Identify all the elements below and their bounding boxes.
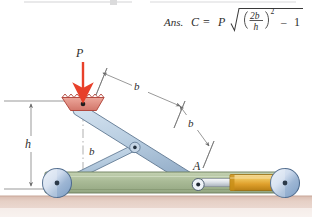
label-b-upper-far: b — [134, 80, 140, 92]
exponent: 2 — [271, 7, 275, 16]
piston-rod — [202, 179, 232, 187]
scan-artifact-strip — [24, 0, 296, 5]
label-A: A — [192, 159, 201, 173]
ground — [0, 196, 312, 217]
wheel-left — [43, 169, 72, 198]
dimension-b-upper-far — [96, 68, 185, 128]
answer-equation: Ans. C = P 2b h 2 – 1 — [163, 7, 303, 32]
label-P: P — [75, 46, 84, 60]
answer-factor: P — [217, 15, 226, 29]
label-b-lower: b — [89, 145, 95, 157]
shoe-dimension-leader — [96, 68, 107, 95]
joint-middle — [130, 142, 140, 152]
joint-a — [192, 179, 204, 191]
paren-left — [245, 12, 248, 29]
b-near-extension-left — [174, 101, 185, 128]
radicand-numerator: 2b — [250, 11, 260, 21]
answer-equals: = — [203, 15, 210, 29]
figure-canvas: Ans. C = P 2b h 2 – 1 h — [0, 0, 312, 217]
minus-sign: – — [280, 16, 287, 28]
constant-one: 1 — [294, 15, 300, 29]
answer-prefix: Ans. — [163, 16, 183, 28]
mechanism-figure: Ans. C = P 2b h 2 – 1 h — [0, 0, 312, 217]
radicand-denominator: h — [254, 22, 259, 32]
shoe-pivot — [81, 102, 86, 107]
wheel-right — [271, 169, 300, 198]
answer-lhs: C — [191, 15, 200, 29]
paren-right — [266, 12, 269, 29]
dimension-b-upper-near — [174, 101, 214, 168]
label-h: h — [25, 137, 31, 151]
label-b-upper-near: b — [188, 117, 194, 129]
